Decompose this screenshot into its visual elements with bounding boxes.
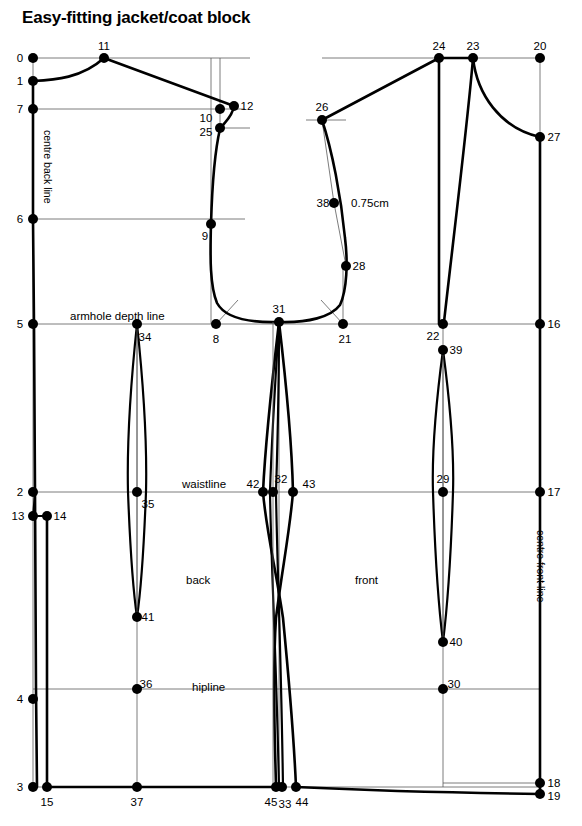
point-label-12: 12 [241,100,254,112]
point-marker-32 [268,487,278,497]
axis-text-labels: centre back line centre front line [42,130,547,603]
point-label-24: 24 [433,40,446,52]
front-shoulder-seam [322,58,439,120]
construction-point-4: 4 [17,693,38,705]
armhole-depth-line-label: armhole depth line [70,310,165,322]
point-marker-18 [535,778,545,788]
front-hemline [296,787,540,794]
point-marker-41 [132,612,142,622]
point-label-20: 20 [534,40,547,52]
centre-back-line-label: centre back line [42,130,54,204]
construction-point-39: 39 [438,344,462,356]
point-label-18: 18 [548,777,561,789]
point-label-8: 8 [213,333,219,345]
construction-point-1: 1 [17,75,38,87]
point-marker-12 [229,101,239,111]
point-label-23: 23 [467,40,480,52]
construction-point-30: 30 [438,678,460,694]
construction-point-17: 17 [535,486,560,498]
point-label-35: 35 [142,498,155,510]
point-label-19: 19 [548,790,561,802]
point-label-27: 27 [548,131,561,143]
construction-point-25: 25 [200,123,225,138]
point-marker-16 [535,319,545,329]
point-label-33: 33 [279,798,292,810]
back-dart-left-leg [128,324,137,617]
back-shoulder-seam [104,58,234,106]
named-line-labels: armhole depth line waistline hipline bac… [70,197,389,693]
back-panel-label: back [186,574,211,586]
point-label-43: 43 [303,478,316,490]
construction-point-3: 3 [17,781,38,793]
construction-point-2: 2 [17,486,38,498]
construction-point-35: 35 [132,487,154,510]
point-label-3: 3 [17,781,23,793]
construction-point-31: 31 [273,303,286,327]
point-marker-24 [434,53,444,63]
point-label-4: 4 [17,693,24,705]
construction-point-19: 19 [535,789,560,802]
point-marker-25 [215,123,225,133]
point-marker-23 [468,53,478,63]
point-marker-3 [28,782,38,792]
point-label-5: 5 [17,318,23,330]
construction-point-21: 21 [338,319,351,345]
point-label-38: 38 [317,197,330,209]
point-marker-43 [288,487,298,497]
back-armhole-curve [211,106,279,322]
point-label-32: 32 [275,473,288,485]
point-marker-1 [28,76,38,86]
construction-point-8: 8 [211,319,221,345]
point-label-1: 1 [17,75,23,87]
point-marker-17 [535,487,545,497]
construction-point-5: 5 [17,318,38,330]
point-marker-5 [28,319,38,329]
point-label-10: 10 [200,112,213,124]
construction-point-41: 41 [132,611,154,623]
front-neckline [473,58,540,137]
back-centre-back-seam [33,81,37,787]
back-dart-right-leg [137,324,146,617]
back-outline [33,58,296,787]
point-label-41: 41 [142,611,155,623]
point-label-6: 6 [17,213,23,225]
point-label-16: 16 [548,318,561,330]
point-marker-28 [341,261,351,271]
point-label-40: 40 [450,636,463,648]
point-label-29: 29 [437,473,450,485]
point-marker-19 [535,789,545,799]
point-label-21: 21 [339,333,352,345]
construction-point-33: 33 [277,782,291,810]
centre-front-line-label: centre front line [535,530,547,603]
construction-point-24: 24 [433,40,446,63]
point-marker-13 [28,511,38,521]
construction-point-26: 26 [316,101,329,125]
construction-point-14: 14 [42,510,67,522]
point-marker-7 [28,104,38,114]
point-marker-9 [206,219,216,229]
construction-point-20: 20 [534,40,547,63]
point-marker-14 [42,511,52,521]
point-marker-8 [211,319,221,329]
point-label-22: 22 [427,330,440,342]
point-label-14: 14 [54,510,67,522]
point-marker-20 [535,53,545,63]
hipline-label: hipline [192,681,225,693]
point-label-25: 25 [200,126,213,138]
point-label-34: 34 [139,331,152,343]
construction-point-9: 9 [202,219,216,242]
point-label-2: 2 [17,486,23,498]
construction-point-16: 16 [535,318,560,330]
point-marker-30 [438,684,448,694]
construction-points: 0176521314431511101225983121343541363742… [12,40,561,810]
front-panel-label: front [355,574,379,586]
construction-point-37: 37 [131,782,144,808]
point-label-11: 11 [98,40,110,52]
point-marker-34 [132,319,142,329]
point-label-15: 15 [41,796,54,808]
point-marker-35 [132,487,142,497]
point-marker-31 [274,317,284,327]
point-marker-10 [215,104,225,114]
construction-point-13: 13 [12,510,38,522]
construction-point-7: 7 [17,103,38,115]
